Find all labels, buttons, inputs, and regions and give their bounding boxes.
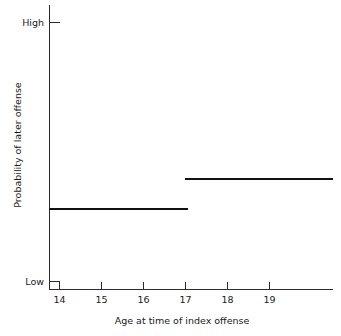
x-tick-label-16: 16 xyxy=(137,294,149,305)
x-axis-title: Age at time of index offense xyxy=(115,315,250,326)
chart-container: High Low 14 15 16 17 18 19 Age at time o… xyxy=(0,0,341,336)
x-tick-label-14: 14 xyxy=(53,294,65,305)
x-tick-label-17: 17 xyxy=(179,294,191,305)
x-tick-label-18: 18 xyxy=(221,294,233,305)
y-axis-title: Probability of later offense xyxy=(12,82,23,208)
x-tick-label-19: 19 xyxy=(263,294,275,305)
probability-step-chart: High Low 14 15 16 17 18 19 Age at time o… xyxy=(0,0,341,336)
y-axis-label-high: High xyxy=(22,17,44,28)
x-tick-label-15: 15 xyxy=(95,294,107,305)
y-axis-label-low: Low xyxy=(25,276,44,287)
